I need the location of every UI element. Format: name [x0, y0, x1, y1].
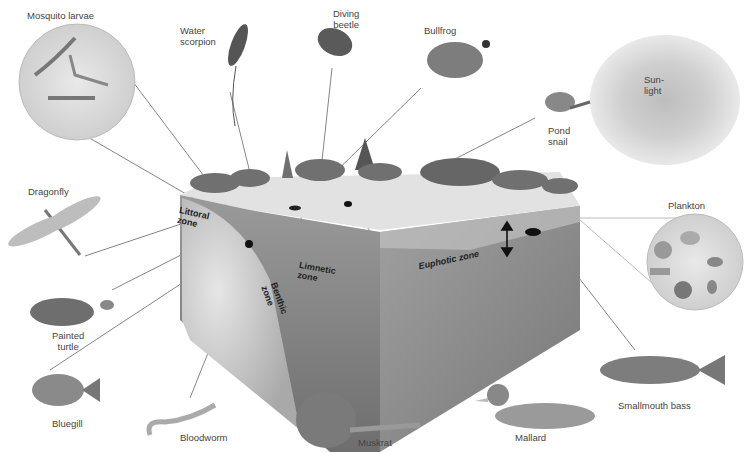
smallmouth-bass-icon — [600, 355, 725, 385]
label-pond-snail: Pond snail — [548, 125, 570, 147]
pond-snail-icon — [545, 92, 590, 112]
label-plankton: Plankton — [668, 200, 705, 211]
dragonfly-icon — [5, 191, 104, 255]
label-water-scorpion: Water scorpion — [180, 25, 216, 47]
label-mosquito-larvae: Mosquito larvae — [27, 10, 94, 21]
label-painted-turtle: Painted turtle — [52, 330, 84, 352]
lake-diagram — [0, 0, 751, 452]
mosquito-larvae-bubble — [19, 24, 135, 140]
label-diving-beetle: Diving beetle — [333, 8, 359, 30]
bullfrog-icon — [427, 40, 490, 78]
label-bullfrog: Bullfrog — [424, 25, 456, 36]
label-muskrat: Muskrat — [358, 437, 392, 448]
mallard-icon — [475, 384, 595, 429]
bluegill-icon — [32, 374, 100, 406]
label-sunlight: Sun- light — [644, 74, 664, 96]
plankton-bubble — [647, 214, 743, 310]
label-smallmouth-bass: Smallmouth bass — [618, 400, 691, 411]
label-dragonfly: Dragonfly — [28, 186, 69, 197]
bloodworm-icon — [149, 405, 215, 435]
label-mallard: Mallard — [515, 432, 546, 443]
label-bloodworm: Bloodworm — [180, 432, 228, 443]
label-bluegill: Bluegill — [52, 418, 83, 429]
painted-turtle-icon — [30, 298, 114, 326]
water-scorpion-icon — [224, 22, 252, 126]
